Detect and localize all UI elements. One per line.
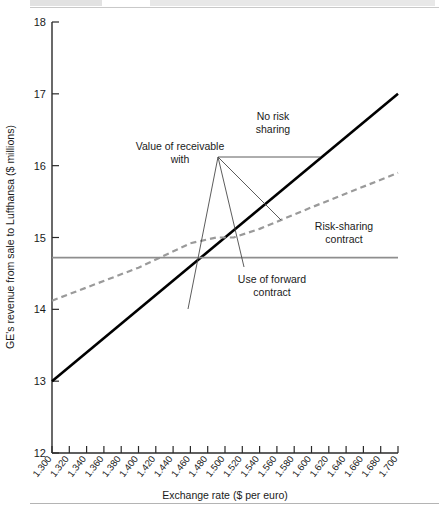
page-running-head <box>0 0 439 9</box>
leader-to-risk-sharing <box>218 157 281 220</box>
chart-figure: 12131415161718 1.3001.3201.3401.3601.380… <box>0 9 439 503</box>
y-axis-ticks: 12131415161718 <box>34 16 59 459</box>
annotation-use-of-forward-contract-line2: contract <box>253 286 290 298</box>
annotation-value-of-receivable-line1: Value of receivable <box>136 140 225 152</box>
running-head-ghost-left <box>30 0 102 6</box>
chart-annotations: Value of receivable with No risk sharing… <box>136 110 374 298</box>
annotation-no-risk-sharing-line2: sharing <box>256 123 291 135</box>
annotation-risk-sharing-contract-line1: Risk-sharing <box>315 220 374 232</box>
y-tick-label: 16 <box>34 160 46 172</box>
x-axis-title: Exchange rate ($ per euro) <box>162 489 288 501</box>
annotation-value-of-receivable-line2: with <box>170 153 190 165</box>
running-head-rule <box>30 7 439 8</box>
running-head-ghost-right <box>150 0 435 6</box>
annotation-use-of-forward-contract-line1: Use of forward <box>238 273 306 285</box>
y-tick-label: 18 <box>34 16 46 28</box>
x-axis-ticks: 1.3001.3201.3401.3601.3801.4001.4201.440… <box>30 446 399 479</box>
annotation-no-risk-sharing-line1: No risk <box>257 110 290 122</box>
figure-bottom-rule <box>30 503 439 504</box>
annotation-risk-sharing-contract-line2: contract <box>325 233 362 245</box>
y-tick-label: 14 <box>34 303 46 315</box>
leader-to-forward-contract <box>218 157 244 267</box>
y-tick-label: 15 <box>34 232 46 244</box>
leader-from-value-label <box>188 157 218 309</box>
exchange-rate-risk-chart: 12131415161718 1.3001.3201.3401.3601.380… <box>0 9 439 503</box>
y-tick-label: 17 <box>34 88 46 100</box>
x-tick-label: 1.700 <box>376 453 399 479</box>
y-axis-title: GE's revenue from sale to Lufthansa ($ m… <box>4 125 16 349</box>
y-tick-label: 13 <box>34 375 46 387</box>
